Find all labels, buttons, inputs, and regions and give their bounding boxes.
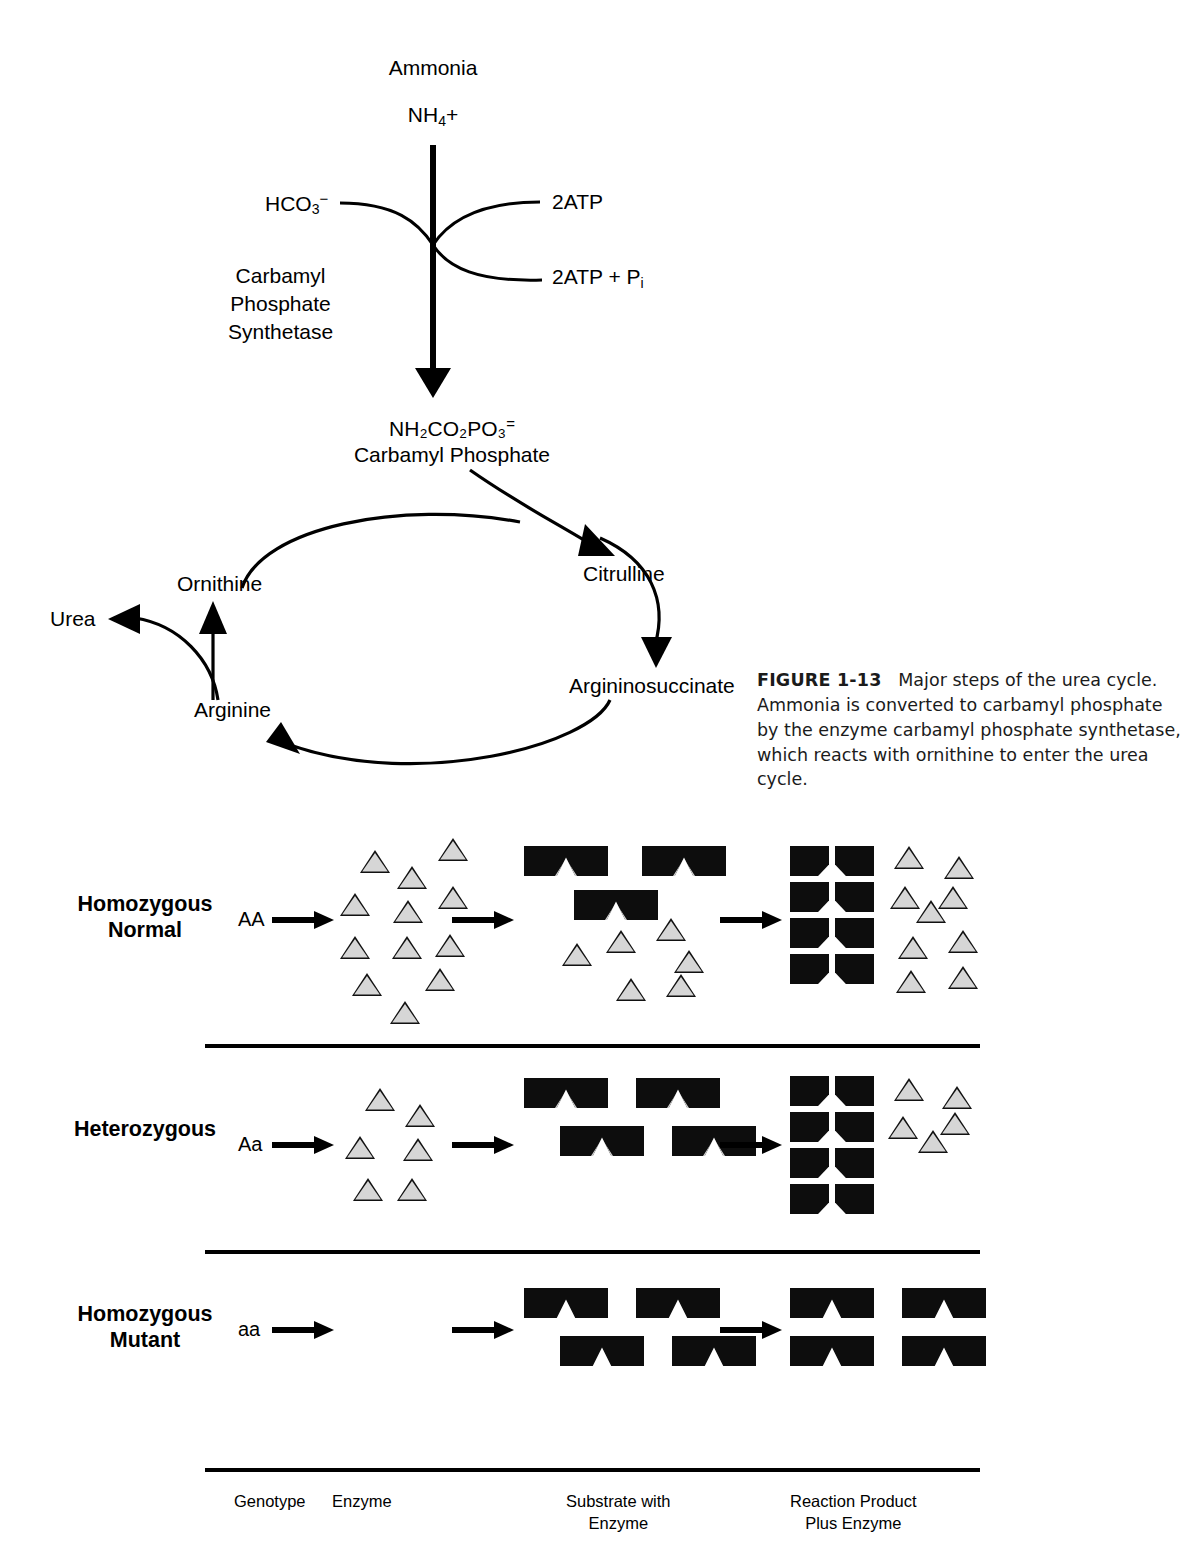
row-label-2: Homozygous Mutant: [60, 1302, 230, 1354]
enzyme-triangle-icon: [352, 973, 382, 996]
enzyme-triangle-icon: [435, 934, 465, 957]
triangle-fill: [399, 869, 425, 888]
triangle-fill: [920, 1133, 946, 1152]
ornithine-to-citrulline-arc: [242, 514, 520, 588]
column-header-0: Genotype: [234, 1490, 306, 1512]
product-half-right: [835, 918, 874, 948]
ornithine-arrowhead: [199, 601, 227, 634]
triangle-fill: [405, 1141, 431, 1160]
panel-divider-1: [205, 1250, 980, 1254]
enzyme-triangle-icon: [438, 838, 468, 861]
column-header-2: Substrate with Enzyme: [566, 1490, 671, 1535]
triangle-fill: [440, 889, 466, 908]
arginine-label: Arginine: [194, 698, 271, 723]
product-half-left: [790, 1148, 829, 1178]
figure-caption: FIGURE 1-13 Major steps of the urea cycl…: [757, 668, 1187, 792]
enzyme-triangle-icon: [353, 1178, 383, 1201]
arrow-substrate-to-product-2: [720, 1319, 782, 1341]
enzyme-triangle-icon: [918, 1130, 948, 1153]
enzyme-triangle-icon: [616, 978, 646, 1001]
arrow-enzyme-to-substrate-0: [452, 909, 514, 931]
column-header-1: Enzyme: [332, 1490, 392, 1512]
enzyme-triangle-icon: [405, 1104, 435, 1127]
triangle-fill: [440, 841, 466, 860]
enzyme-triangle-icon: [666, 974, 696, 997]
triangle-fill: [395, 903, 421, 922]
triangle-fill: [950, 969, 976, 988]
triangle-fill: [407, 1107, 433, 1126]
arrow-genotype-to-enzyme-2: [272, 1319, 334, 1341]
argininosuccinate-to-arginine-arc: [290, 700, 610, 764]
enzyme-triangle-icon: [345, 1136, 375, 1159]
product-half-left: [790, 1184, 829, 1214]
enzyme-triangle-icon: [403, 1138, 433, 1161]
column-header-3: Reaction Product Plus Enzyme: [790, 1490, 917, 1535]
urea-arrowhead: [108, 604, 140, 634]
genotype-label-0: AA: [238, 908, 265, 931]
product-half-right: [835, 954, 874, 984]
panel-divider-0: [205, 1044, 980, 1048]
triangle-fill: [944, 1089, 970, 1108]
arrow-genotype-to-enzyme-0: [272, 909, 334, 931]
enzyme-triangle-icon: [674, 950, 704, 973]
triangle-fill: [367, 1091, 393, 1110]
triangle-fill: [399, 1181, 425, 1200]
citrulline-arrowhead: [578, 524, 615, 556]
enzyme-triangle-icon: [390, 1001, 420, 1024]
product-half-right: [835, 846, 874, 876]
row-label-0: Homozygous Normal: [60, 892, 230, 944]
triangle-fill: [658, 921, 684, 940]
reaction-product-pair: [790, 846, 874, 876]
triangle-fill: [896, 1081, 922, 1100]
arrow-substrate-to-product-0: [720, 909, 782, 931]
enzyme-triangle-icon: [948, 930, 978, 953]
enzyme-triangle-icon: [562, 943, 592, 966]
enzyme-triangle-icon: [894, 846, 924, 869]
enzyme-triangle-icon: [896, 970, 926, 993]
enzyme-triangle-icon: [944, 856, 974, 879]
product-half-left: [790, 882, 829, 912]
triangle-fill: [898, 973, 924, 992]
reaction-product-pair: [790, 954, 874, 984]
arrow-enzyme-to-substrate-1: [452, 1134, 514, 1156]
enzyme-triangle-icon: [340, 936, 370, 959]
triangle-fill: [394, 939, 420, 958]
product-half-left: [790, 846, 829, 876]
triangle-fill: [342, 939, 368, 958]
reaction-product-pair: [790, 1184, 874, 1214]
genotype-label-1: Aa: [238, 1133, 262, 1156]
product-half-right: [835, 1076, 874, 1106]
genotype-label-2: aa: [238, 1318, 260, 1341]
triangle-fill: [900, 939, 926, 958]
reaction-product-pair: [790, 1112, 874, 1142]
triangle-fill: [950, 933, 976, 952]
triangle-fill: [890, 1119, 916, 1138]
ornithine-label: Ornithine: [177, 572, 262, 597]
caption-spacer: [882, 670, 899, 690]
triangle-fill: [437, 937, 463, 956]
product-half-left: [790, 918, 829, 948]
enzyme-triangle-icon: [425, 968, 455, 991]
panel-divider-2: [205, 1468, 980, 1472]
enzyme-triangle-icon: [888, 1116, 918, 1139]
figure-number: FIGURE 1-13: [757, 670, 882, 690]
triangle-fill: [608, 933, 634, 952]
reaction-product-pair: [790, 1148, 874, 1178]
enzyme-triangle-icon: [898, 936, 928, 959]
enzyme-triangle-icon: [365, 1088, 395, 1111]
product-half-right: [835, 1148, 874, 1178]
triangle-fill: [618, 981, 644, 1000]
enzyme-triangle-icon: [894, 1078, 924, 1101]
enzyme-triangle-icon: [397, 1178, 427, 1201]
triangle-fill: [918, 903, 944, 922]
arginine-arrowhead: [266, 722, 300, 754]
reaction-product-pair: [790, 918, 874, 948]
row-label-1: Heterozygous: [60, 1117, 230, 1143]
arrow-genotype-to-enzyme-1: [272, 1134, 334, 1156]
triangle-fill: [392, 1004, 418, 1023]
enzyme-triangle-icon: [656, 918, 686, 941]
citrulline-label: Citrulline: [583, 562, 665, 587]
argininosuccinate-arrowhead: [641, 637, 672, 668]
triangle-fill: [946, 859, 972, 878]
carbamyl-to-citrulline-line: [470, 470, 592, 545]
